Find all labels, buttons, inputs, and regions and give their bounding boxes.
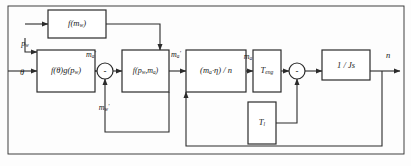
wire-f-mw-output [106, 24, 160, 50]
block-one-over-js-label: 1 / Js [337, 61, 355, 70]
block-f-pw-ma-label: f(pw,ma) [133, 67, 159, 76]
signal-mw-prime: mw′ [99, 103, 110, 113]
block-ma-eta-n-label: (ma·η) / n [200, 66, 232, 76]
block-f-mw-label: f(mw) [68, 19, 86, 29]
block-rectangles [37, 10, 370, 144]
block-t-eng-label: Teng [261, 66, 274, 76]
signal-ma-prime-1: ma′ [86, 50, 96, 60]
signal-theta-input: θ [20, 68, 24, 77]
diagram-svg [0, 0, 411, 166]
block-diagram-canvas: f(mw)f(θ)g(pw)f(pw,ma)(ma·η) / nTengTl1 … [0, 0, 411, 166]
signal-n-output: n [386, 51, 390, 60]
block-f-theta-g-pw-label: f(θ)g(pw) [51, 66, 81, 76]
signal-pw-input: pw [21, 40, 29, 49]
block-t-load-label: Tl [259, 118, 265, 128]
signal-ma: ma [244, 53, 252, 62]
sum-junction-torque-sign: - [296, 67, 299, 76]
signal-ma-prime-2: ma′ [171, 50, 181, 60]
sum-junction-air-sign: - [104, 67, 107, 76]
